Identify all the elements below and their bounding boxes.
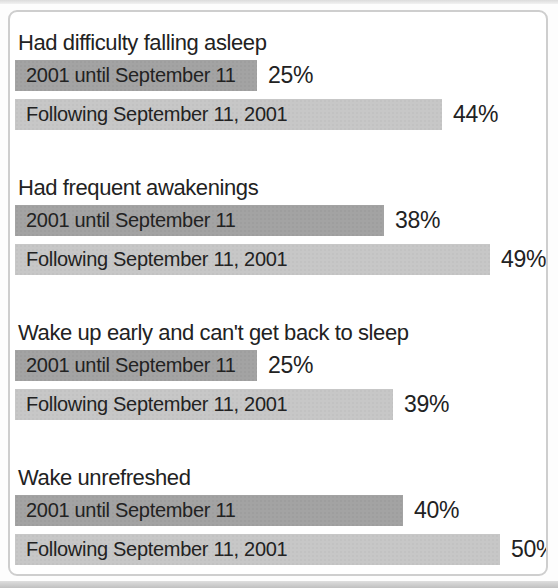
bar-row: Following September 11, 2001 49% <box>15 244 546 275</box>
group-heading: Had difficulty falling asleep <box>18 32 546 54</box>
bar-value-label: 50% <box>511 536 548 563</box>
bar-before-sept11: 2001 until September 11 <box>15 350 257 381</box>
bar-series-label: 2001 until September 11 <box>15 64 236 87</box>
bar-row: 2001 until September 11 38% <box>15 205 546 236</box>
bar-row: Following September 11, 2001 44% <box>15 99 546 130</box>
bar-row: 2001 until September 11 25% <box>15 60 546 91</box>
bar-value-label: 44% <box>453 101 498 128</box>
chart-group-frequent-awakenings: Had frequent awakenings 2001 until Septe… <box>15 177 546 275</box>
bar-after-sept11: Following September 11, 2001 <box>15 244 490 275</box>
bar-row: Following September 11, 2001 50% <box>15 534 546 565</box>
page-edge-shadow <box>0 581 558 588</box>
bar-series-label: Following September 11, 2001 <box>15 248 287 271</box>
bar-value-label: 49% <box>501 246 546 273</box>
group-heading: Had frequent awakenings <box>18 177 546 199</box>
group-heading: Wake unrefreshed <box>18 467 546 489</box>
chart-frame: Had difficulty falling asleep 2001 until… <box>8 10 548 576</box>
bar-series-label: Following September 11, 2001 <box>15 538 287 561</box>
bar-series-label: Following September 11, 2001 <box>15 393 287 416</box>
bar-value-label: 25% <box>268 62 313 89</box>
bar-value-label: 39% <box>404 391 449 418</box>
bar-value-label: 38% <box>395 207 440 234</box>
chart-group-wake-up-early: Wake up early and can't get back to slee… <box>15 322 546 420</box>
chart-group-difficulty-falling-asleep: Had difficulty falling asleep 2001 until… <box>15 32 546 130</box>
bar-row: 2001 until September 11 25% <box>15 350 546 381</box>
bar-series-label: 2001 until September 11 <box>15 209 236 232</box>
bar-after-sept11: Following September 11, 2001 <box>15 389 393 420</box>
bar-value-label: 25% <box>268 352 313 379</box>
bar-row: 2001 until September 11 40% <box>15 495 546 526</box>
bar-series-label: Following September 11, 2001 <box>15 103 287 126</box>
bar-before-sept11: 2001 until September 11 <box>15 60 257 91</box>
bar-before-sept11: 2001 until September 11 <box>15 495 403 526</box>
bar-value-label: 40% <box>414 497 459 524</box>
bar-series-label: 2001 until September 11 <box>15 499 236 522</box>
bar-row: Following September 11, 2001 39% <box>15 389 546 420</box>
bar-after-sept11: Following September 11, 2001 <box>15 99 442 130</box>
bar-before-sept11: 2001 until September 11 <box>15 205 384 236</box>
chart-group-wake-unrefreshed: Wake unrefreshed 2001 until September 11… <box>15 467 546 565</box>
bar-after-sept11: Following September 11, 2001 <box>15 534 500 565</box>
group-heading: Wake up early and can't get back to slee… <box>18 322 546 344</box>
scan-top-edge <box>0 0 558 4</box>
bar-series-label: 2001 until September 11 <box>15 354 236 377</box>
